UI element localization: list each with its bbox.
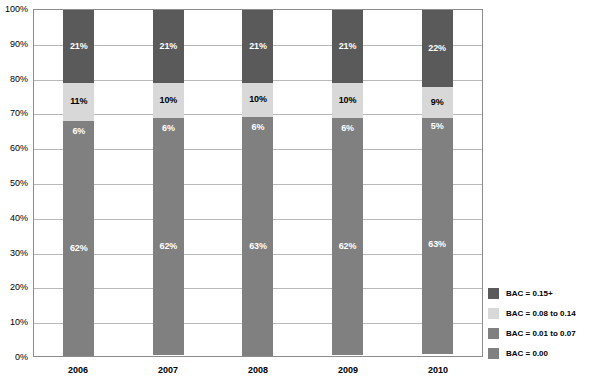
bar-segment[interactable]: 62% [63, 141, 94, 356]
x-axis: 20062007200820092010 [33, 357, 483, 383]
segment-data-label: 63% [428, 240, 446, 249]
legend-label: BAC = 0.08 to 0.14 [506, 310, 576, 318]
bar-segment[interactable]: 22% [422, 10, 453, 87]
bar-segment[interactable]: 6% [63, 121, 94, 142]
legend: BAC = 0.15+BAC = 0.08 to 0.14BAC = 0.01 … [488, 286, 587, 366]
bar-segment[interactable]: 62% [332, 139, 363, 355]
segment-data-label: 22% [428, 44, 446, 53]
x-tick-label: 2009 [338, 366, 358, 375]
x-tick-label: 2010 [428, 366, 448, 375]
segment-data-label: 62% [70, 244, 88, 253]
legend-label: BAC = 0.15+ [506, 290, 553, 298]
y-tick-label: 90% [10, 39, 28, 48]
bar-stack[interactable]: 21%10%6%62% [332, 10, 363, 356]
segment-data-label: 10% [249, 95, 267, 104]
bar-segment[interactable]: 21% [242, 10, 273, 83]
y-tick-label: 10% [10, 318, 28, 327]
bar-segment[interactable]: 62% [153, 139, 184, 355]
y-axis: 0%10%20%30%40%50%60%70%80%90%100% [0, 0, 33, 383]
y-tick-label: 70% [10, 109, 28, 118]
stacked-bar-chart: 0%10%20%30%40%50%60%70%80%90%100% 21%11%… [0, 0, 589, 383]
segment-data-label: 6% [72, 127, 85, 136]
bar-segment[interactable]: 63% [242, 138, 273, 356]
bars-layer: 21%11%6%62%21%10%6%62%21%10%6%63%21%10%6… [34, 10, 482, 356]
x-tick-group: 2010 [393, 357, 483, 383]
bar-stack[interactable]: 22%9%5%63% [422, 10, 453, 356]
bar-segment[interactable]: 10% [332, 83, 363, 118]
bar-group: 21%10%6%62% [124, 10, 214, 356]
segment-data-label: 62% [160, 242, 178, 251]
segment-data-label: 6% [162, 124, 175, 133]
plot-area: 21%11%6%62%21%10%6%62%21%10%6%63%21%10%6… [33, 9, 483, 357]
bar-segment[interactable]: 10% [153, 83, 184, 118]
y-tick-label: 50% [10, 179, 28, 188]
y-tick-label: 80% [10, 74, 28, 83]
bar-segment[interactable]: 21% [332, 10, 363, 83]
bar-segment[interactable]: 63% [422, 135, 453, 354]
y-tick-label: 20% [10, 283, 28, 292]
bar-segment[interactable]: 6% [242, 117, 273, 138]
bar-group: 21%10%6%62% [303, 10, 393, 356]
segment-data-label: 5% [431, 122, 444, 131]
segment-data-label: 9% [431, 98, 444, 107]
legend-item[interactable]: BAC = 0.00 [488, 346, 587, 361]
segment-data-label: 10% [160, 96, 178, 105]
legend-label: BAC = 0.00 [506, 350, 548, 358]
x-tick-group: 2008 [213, 357, 303, 383]
segment-data-label: 21% [160, 42, 178, 51]
bar-segment[interactable]: 9% [422, 87, 453, 118]
x-tick-group: 2007 [123, 357, 213, 383]
legend-swatch [488, 348, 499, 359]
bar-segment[interactable]: 11% [63, 83, 94, 121]
x-tick-label: 2008 [248, 366, 268, 375]
y-tick-label: 60% [10, 144, 28, 153]
x-tick-label: 2007 [158, 366, 178, 375]
segment-data-label: 11% [70, 97, 87, 106]
segment-data-label: 62% [339, 242, 357, 251]
bar-group: 21%10%6%63% [213, 10, 303, 356]
y-tick-label: 30% [10, 248, 28, 257]
segment-data-label: 10% [339, 96, 357, 105]
legend-swatch [488, 328, 499, 339]
y-tick-label: 100% [5, 5, 28, 14]
segment-data-label: 21% [249, 42, 267, 51]
segment-data-label: 21% [70, 42, 88, 51]
segment-data-label: 21% [339, 42, 357, 51]
bar-group: 21%11%6%62% [34, 10, 124, 356]
bar-segment[interactable]: 10% [242, 83, 273, 118]
y-tick-label: 40% [10, 213, 28, 222]
segment-data-label: 63% [249, 242, 267, 251]
legend-item[interactable]: BAC = 0.15+ [488, 286, 587, 301]
bar-segment[interactable]: 21% [63, 10, 94, 83]
y-tick-label: 0% [15, 353, 28, 362]
x-tick-group: 2009 [303, 357, 393, 383]
x-tick-group: 2006 [33, 357, 123, 383]
bar-stack[interactable]: 21%10%6%62% [153, 10, 184, 356]
legend-item[interactable]: BAC = 0.08 to 0.14 [488, 306, 587, 321]
legend-swatch [488, 288, 499, 299]
bar-segment[interactable]: 21% [153, 10, 184, 83]
bar-group: 22%9%5%63% [392, 10, 482, 356]
bar-stack[interactable]: 21%10%6%63% [242, 10, 273, 356]
legend-label: BAC = 0.01 to 0.07 [506, 330, 576, 338]
x-tick-label: 2006 [68, 366, 88, 375]
bar-segment[interactable]: 6% [332, 118, 363, 139]
legend-swatch [488, 308, 499, 319]
legend-item[interactable]: BAC = 0.01 to 0.07 [488, 326, 587, 341]
bar-segment[interactable]: 5% [422, 118, 453, 135]
bar-segment[interactable]: 6% [153, 118, 184, 139]
segment-data-label: 6% [341, 124, 354, 133]
segment-data-label: 6% [252, 123, 265, 132]
bar-stack[interactable]: 21%11%6%62% [63, 10, 94, 356]
